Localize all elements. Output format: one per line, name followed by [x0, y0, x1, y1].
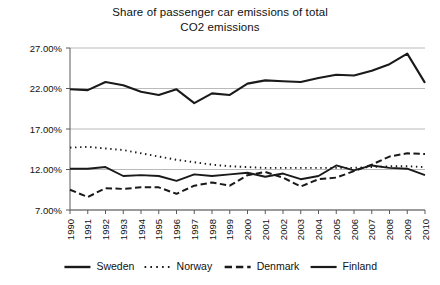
x-axis-tick-label: 1995: [153, 219, 164, 240]
legend-label-sweden: Sweden: [96, 260, 134, 272]
x-axis-tick-label: 2005: [331, 219, 342, 240]
y-axis-tick-label: 17.00%: [30, 124, 63, 135]
y-axis-tick-label: 22.00%: [30, 83, 63, 94]
chart-legend: SwedenNorwayDenmarkFinland: [64, 260, 377, 272]
chart-container: Share of passenger car emissions of tota…: [0, 0, 440, 285]
x-axis-tick-label: 2004: [313, 219, 324, 240]
y-axis-tick-label: 12.00%: [30, 164, 63, 175]
x-axis-tick-label: 2010: [420, 219, 431, 240]
data-series-group: [70, 54, 425, 197]
y-axis-tick-label: 27.00%: [30, 43, 63, 54]
series-line-sweden: [70, 54, 425, 103]
x-axis-tick-label: 1992: [100, 219, 111, 240]
x-axis-tick-label: 2003: [295, 219, 306, 240]
x-axis-tick-label: 1996: [171, 219, 182, 240]
x-axis-tick-label: 2009: [402, 219, 413, 240]
line-chart-plot: 27.00%22.00%17.00%12.00%7.00% 1990199119…: [0, 0, 440, 285]
y-tickmarks-group: [66, 48, 70, 210]
y-axis-labels-group: 27.00%22.00%17.00%12.00%7.00%: [30, 43, 63, 216]
x-axis-tick-label: 1999: [224, 219, 235, 240]
legend-label-finland: Finland: [343, 260, 378, 272]
x-axis-tick-label: 2001: [260, 219, 271, 240]
chart-title-line-1: Share of passenger car emissions of tota…: [0, 5, 440, 20]
chart-title-line-2: CO2 emissions: [0, 20, 440, 35]
x-axis-tick-label: 1998: [207, 219, 218, 240]
x-axis-tick-label: 1991: [82, 219, 93, 240]
x-axis-tick-label: 2000: [242, 219, 253, 240]
x-axis-tick-label: 1993: [118, 219, 129, 240]
chart-title: Share of passenger car emissions of tota…: [0, 5, 440, 35]
gridlines-group: [70, 48, 425, 210]
x-axis-tick-label: 2002: [278, 219, 289, 240]
x-axis-tick-label: 1990: [65, 219, 76, 240]
x-axis-tick-label: 1994: [136, 219, 147, 240]
legend-label-denmark: Denmark: [257, 260, 300, 272]
x-axis-tick-label: 1997: [189, 219, 200, 240]
x-axis-tick-label: 2008: [384, 219, 395, 240]
x-axis-tick-label: 2006: [349, 219, 360, 240]
x-axis-tick-label: 2007: [366, 219, 377, 240]
y-axis-tick-label: 7.00%: [35, 205, 62, 216]
legend-label-norway: Norway: [177, 260, 213, 272]
x-axis-labels-group: 1990199119921993199419951996199719981999…: [65, 219, 431, 240]
x-axis-group: [70, 48, 425, 214]
